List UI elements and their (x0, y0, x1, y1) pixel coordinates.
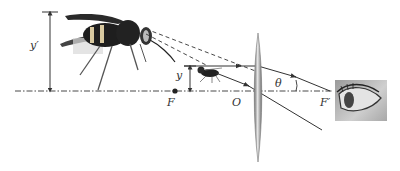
optical-center-label: O (232, 97, 241, 108)
angle-arc (296, 80, 297, 91)
object-height-label: y (176, 70, 182, 81)
object-fly-icon (198, 67, 223, 84)
object-height-arrow (184, 66, 196, 90)
convex-lens (254, 33, 262, 162)
virtual-image-wasp-icon (60, 14, 175, 90)
image-height-arrow (42, 12, 58, 90)
eye-icon (335, 80, 387, 121)
image-height-label: y′ (30, 40, 39, 51)
angle-label: θ (275, 78, 282, 89)
magnifier-diagram: y′ y F O F′ θ (0, 0, 400, 171)
focal-point-front-label: F (167, 97, 175, 108)
focal-point-back-label: F′ (320, 97, 330, 108)
focal-point-marker (172, 88, 177, 93)
